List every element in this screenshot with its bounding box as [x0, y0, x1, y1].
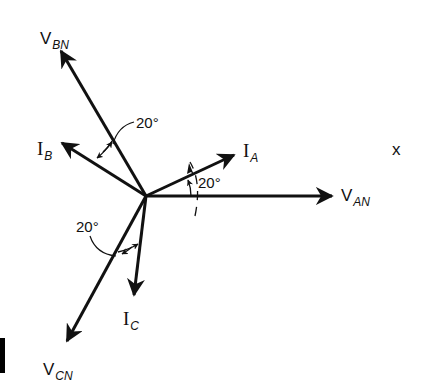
angle-leader-b	[113, 122, 134, 144]
label-v-an: VAN	[341, 187, 370, 204]
angle-label-c: 20°	[76, 219, 99, 234]
angle-arc-b	[97, 141, 112, 158]
phasor-diagram	[0, 0, 442, 389]
label-v-bn: VBN	[40, 30, 69, 47]
label-i-b: IB	[37, 139, 52, 158]
angle-leader-c	[90, 236, 116, 256]
label-i-a: IA	[243, 141, 258, 160]
angle-label-b: 20°	[136, 115, 159, 130]
angle-label-a: 20°	[198, 175, 221, 190]
angle-arc-a	[188, 180, 191, 196]
label-v-cn: VCN	[43, 361, 73, 378]
rotation-arrow-icon	[187, 163, 194, 175]
label-i-c: IC	[123, 309, 139, 328]
phasor-v-bn	[61, 51, 146, 196]
rotation-label: x	[392, 140, 401, 160]
edge-bar	[0, 338, 5, 373]
